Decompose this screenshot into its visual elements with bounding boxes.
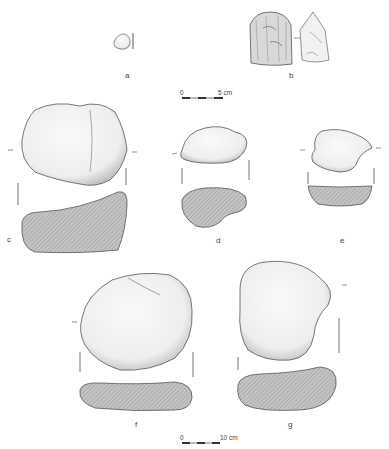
artifact-g bbox=[238, 261, 347, 410]
label-e: e bbox=[340, 236, 344, 245]
artifact-c bbox=[8, 104, 137, 253]
artifact-plate bbox=[0, 0, 389, 449]
artifact-f bbox=[72, 273, 193, 410]
label-b: b bbox=[289, 71, 293, 80]
label-f: f bbox=[135, 420, 137, 429]
scale-bar-5cm bbox=[182, 97, 223, 99]
label-c: c bbox=[7, 235, 11, 244]
artifact-b bbox=[250, 12, 329, 65]
label-d: d bbox=[216, 236, 220, 245]
artifact-a bbox=[114, 33, 133, 49]
scale-bottom-start: 0 bbox=[180, 434, 184, 441]
artifact-e bbox=[300, 130, 381, 206]
label-g: g bbox=[288, 420, 292, 429]
scale-bar-10cm bbox=[182, 442, 220, 444]
scale-top-start: 0 bbox=[180, 89, 184, 96]
scale-bottom-end: 10 cm bbox=[220, 434, 238, 441]
artifact-d bbox=[172, 127, 249, 228]
label-a: a bbox=[125, 71, 129, 80]
scale-top-end: 5 cm bbox=[218, 89, 232, 96]
